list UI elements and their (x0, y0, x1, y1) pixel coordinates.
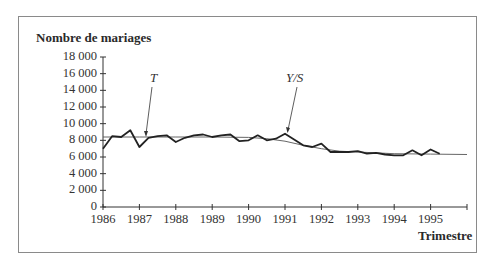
trend-line-T (103, 137, 467, 155)
arrowhead-T (144, 131, 148, 137)
annotation-arrow-T (146, 87, 152, 134)
arrowhead-YS (286, 127, 290, 133)
plot-area (0, 0, 495, 268)
series-line-YS (103, 130, 440, 155)
annotation-arrow-YS (288, 87, 297, 130)
